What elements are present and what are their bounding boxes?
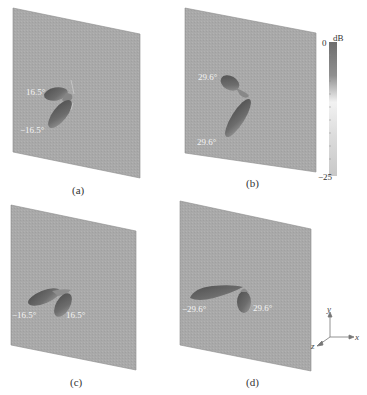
beam-angle-label-left: −29.6°: [182, 304, 207, 314]
metasurface-plane: [11, 205, 136, 370]
axis-label-z: z: [310, 341, 315, 351]
metasurface-plane: [180, 201, 311, 371]
beam-angle-label-right: 16.5°: [66, 310, 86, 320]
panel-c: −16.5° 16.5° (c): [11, 205, 136, 389]
beam-angle-label-left: −16.5°: [12, 310, 37, 320]
beam-angle-label-lower: 29.6°: [197, 137, 217, 147]
beam-angle-label-right: 29.6°: [253, 303, 273, 313]
axis-label-y: y: [326, 304, 331, 314]
beam-angle-label-upper: 29.6°: [198, 72, 218, 82]
axis-triad: [317, 312, 354, 346]
panel-d: −29.6° 29.6° (d): [180, 201, 311, 389]
metasurface-plane: [185, 8, 316, 172]
colorbar-unit: dB: [333, 33, 344, 43]
panel-caption-d: (d): [246, 376, 259, 389]
panel-caption-c: (c): [70, 376, 83, 389]
panel-b: 29.6° 29.6° (b): [185, 8, 316, 190]
axis-label-x: x: [354, 332, 359, 342]
beam-angle-label-upper: 16.5°: [26, 87, 46, 97]
colorbar-gradient: [329, 42, 337, 176]
colorbar-max-label: 0: [322, 38, 327, 48]
colorbar: dB 0 −25: [318, 33, 344, 182]
colorbar-min-label: −25: [318, 172, 333, 182]
figure-canvas: 16.5° −16.5° (a) 29.6° 29.6° (b) dB 0 −2…: [0, 0, 367, 395]
panel-a: 16.5° −16.5° (a): [13, 8, 140, 197]
panel-caption-b: (b): [246, 177, 259, 190]
panel-caption-a: (a): [72, 184, 85, 197]
beam-angle-label-lower: −16.5°: [20, 125, 45, 135]
